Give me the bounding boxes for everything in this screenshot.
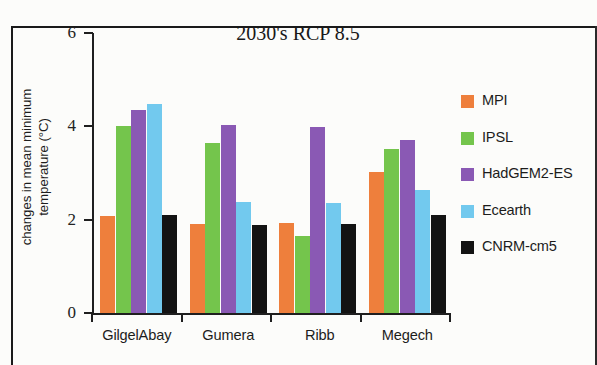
y-axis-tick-label: 2 [50, 211, 76, 228]
legend-label: Ecearth [482, 202, 531, 218]
bar [279, 223, 294, 313]
bar-groups [92, 33, 450, 313]
x-axis-tick [449, 313, 451, 322]
x-axis-tick [91, 313, 93, 322]
bar [190, 224, 205, 313]
legend-color-swatch [461, 95, 474, 108]
y-axis-label: changes in mean minimum temperature (°C) [18, 36, 52, 298]
bar [400, 140, 415, 313]
bar [415, 190, 430, 313]
bar [100, 216, 115, 313]
legend-label: CNRM-cm5 [482, 238, 557, 254]
bar-group [279, 33, 356, 313]
bar [162, 215, 177, 313]
bar [384, 149, 399, 313]
bar [310, 127, 325, 313]
bar [221, 125, 236, 313]
bar-group [190, 33, 267, 313]
x-axis-tick [360, 313, 362, 322]
legend-label: IPSL [482, 129, 513, 145]
x-axis-tick [270, 313, 272, 322]
y-axis-tick-label: 0 [50, 304, 76, 321]
legend-item[interactable]: Ecearth [461, 202, 593, 239]
bar [369, 172, 384, 313]
x-axis-category-label: Megech [349, 327, 467, 343]
legend-color-swatch [461, 241, 474, 254]
y-axis-tick-label: 4 [50, 117, 76, 134]
y-axis-tick-label: 6 [50, 24, 76, 41]
legend-item[interactable]: CNRM-cm5 [461, 238, 593, 275]
bar [131, 110, 146, 313]
bar [236, 202, 251, 313]
legend-item[interactable]: HadGEM2-ES [461, 165, 593, 202]
bar [205, 143, 220, 313]
bar [341, 224, 356, 313]
bar [147, 104, 162, 313]
legend-color-swatch [461, 205, 474, 218]
legend-label: HadGEM2-ES [482, 165, 572, 181]
x-axis-tick [181, 313, 183, 322]
bar [431, 215, 446, 313]
bar [252, 225, 267, 313]
bar [116, 126, 131, 313]
bar-chart: 2030's RCP 8.5 changes in mean minimum t… [0, 0, 597, 365]
bar-group [100, 33, 177, 313]
chart-legend: MPIIPSLHadGEM2-ESEcearthCNRM-cm5 [461, 92, 593, 275]
legend-item[interactable]: MPI [461, 92, 593, 129]
legend-color-swatch [461, 132, 474, 145]
legend-label: MPI [482, 92, 507, 108]
legend-item[interactable]: IPSL [461, 129, 593, 166]
bar [295, 236, 310, 313]
bar [326, 203, 341, 313]
bar-group [369, 33, 446, 313]
scanned-page: 2030's RCP 8.5 changes in mean minimum t… [0, 0, 597, 365]
legend-color-swatch [461, 168, 474, 181]
